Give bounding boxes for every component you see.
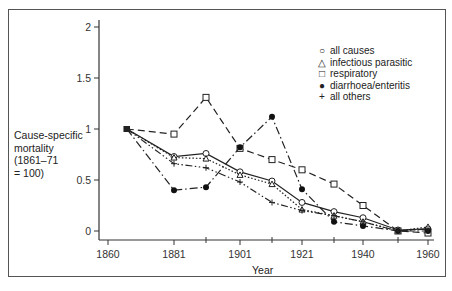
plus-icon: + [314, 91, 330, 103]
y-axis-title-line: mortality [14, 142, 83, 155]
y-tick-label: 1.5 [76, 72, 91, 84]
series-line-all-others [127, 129, 428, 231]
legend: ○ all causes △ infectious parasitic □ re… [314, 45, 412, 103]
filled-circle-icon [269, 114, 275, 120]
open-square-icon [171, 131, 177, 137]
filled-circle-icon [203, 184, 209, 190]
filled-circle-icon [171, 187, 177, 193]
open-square-icon [299, 167, 305, 173]
legend-label: all others [330, 91, 371, 103]
open-square-icon: □ [314, 68, 330, 80]
y-tick-label: 2 [85, 21, 91, 33]
x-tick-label: 1960 [416, 248, 440, 260]
x-tick-label: 1901 [228, 248, 252, 260]
y-axis-title: Cause-specific mortality (1861–71 = 100) [14, 129, 83, 179]
filled-circle-icon [237, 144, 243, 150]
legend-item-diarrhoea-enteritis: ● diarrhoea/enteritis [314, 80, 412, 92]
legend-label: respiratory [330, 68, 377, 80]
y-axis-title-line: Cause-specific [14, 129, 83, 142]
legend-item-respiratory: □ respiratory [314, 68, 412, 80]
legend-label: all causes [330, 45, 374, 57]
series-line-infectious-parasitic [127, 129, 428, 231]
filled-circle-icon: ● [314, 80, 330, 92]
y-tick-label: 0 [85, 225, 91, 237]
x-tick-label: 1860 [96, 248, 120, 260]
x-tick-label: 1940 [351, 248, 375, 260]
y-axis-title-line: (1861–71 [14, 154, 83, 167]
open-circle-icon: ○ [314, 45, 330, 57]
legend-item-all-others: + all others [314, 91, 412, 103]
open-square-icon [203, 94, 209, 100]
x-axis-title: Year [252, 264, 273, 276]
y-axis-title-line: = 100) [14, 167, 83, 180]
legend-label: infectious parasitic [330, 57, 412, 69]
open-circle-icon [299, 199, 305, 205]
filled-circle-icon [299, 186, 305, 192]
series-line-all-causes [127, 129, 428, 230]
open-square-icon [269, 157, 275, 163]
legend-label: diarrhoea/enteritis [330, 80, 410, 92]
open-triangle-icon: △ [314, 57, 330, 69]
open-square-icon [331, 181, 337, 187]
y-tick-label: 1 [85, 123, 91, 135]
filled-circle-icon [331, 219, 337, 225]
x-tick-label: 1881 [162, 248, 186, 260]
x-tick-label: 1921 [290, 248, 314, 260]
series-line-respiratory [127, 97, 428, 233]
legend-item-infectious-parasitic: △ infectious parasitic [314, 57, 412, 69]
open-square-icon [360, 203, 366, 209]
legend-item-all-causes: ○ all causes [314, 45, 412, 57]
